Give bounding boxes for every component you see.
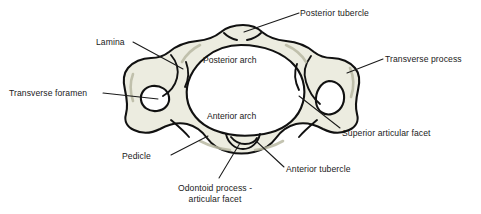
label-transverse-process: Transverse process: [385, 54, 462, 64]
label-posterior-arch: Posterior arch: [203, 55, 257, 65]
label-odontoid-process-line1: Odontoid process -: [178, 183, 252, 193]
anatomy-figure: Posterior tubercle Lamina Transverse pro…: [0, 0, 481, 214]
label-odontoid-process: Odontoid process - articular facet: [155, 183, 275, 204]
vertebra-body-group: [124, 25, 359, 154]
label-transverse-foramen: Transverse foramen: [9, 88, 87, 98]
leader-posterior-tubercle: [244, 13, 299, 32]
label-odontoid-process-line2: articular facet: [189, 194, 242, 204]
label-posterior-tubercle: Posterior tubercle: [300, 8, 369, 18]
label-anterior-tubercle: Anterior tubercle: [286, 164, 351, 174]
label-pedicle: Pedicle: [122, 151, 151, 161]
label-superior-articular-facet: Superior articular facet: [342, 128, 431, 138]
label-lamina: Lamina: [96, 37, 125, 47]
transverse-foramen-right: [316, 81, 344, 114]
atlas-vertebra-diagram: [0, 0, 481, 214]
label-anterior-arch: Anterior arch: [207, 111, 256, 121]
leader-pedicle: [171, 136, 208, 155]
